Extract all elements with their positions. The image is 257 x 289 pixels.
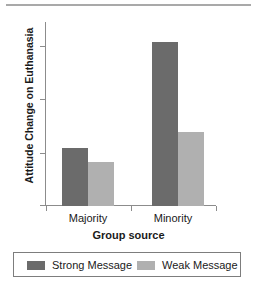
x-axis-label-majority: Majority (48, 212, 128, 224)
bar-minority-strong-message (152, 42, 178, 206)
legend-swatch-weak-message-icon (137, 261, 155, 270)
y-axis-tick-4 (40, 153, 45, 154)
y-axis-tick-5 (40, 99, 45, 100)
x-axis-tick-left (46, 206, 47, 211)
bar-minority-weak-message (178, 132, 204, 206)
top-divider-rule (6, 4, 251, 6)
y-axis-tick-3 (40, 205, 45, 206)
legend-item-weak-message: Weak Message (137, 258, 238, 272)
legend-label-weak-message: Weak Message (162, 259, 238, 271)
bar-chart-figure: 6 5 4 3 Attitude Change on Euthanasia Ma… (0, 0, 257, 289)
x-axis-title: Group source (0, 229, 257, 241)
x-axis-label-minority: Minority (133, 212, 213, 224)
legend-label-strong-message: Strong Message (52, 259, 132, 271)
chart-legend: Strong Message Weak Message (13, 252, 241, 277)
bar-majority-weak-message (88, 162, 114, 206)
x-axis-tick-right (216, 206, 217, 211)
y-axis-tick-6 (40, 46, 45, 47)
y-axis-title: Attitude Change on Euthanasia (24, 11, 35, 201)
x-axis-tick-middle (131, 206, 132, 211)
legend-swatch-strong-message-icon (27, 261, 45, 270)
bar-majority-strong-message (62, 148, 88, 206)
legend-item-strong-message: Strong Message (27, 258, 132, 272)
plot-area (46, 22, 216, 206)
